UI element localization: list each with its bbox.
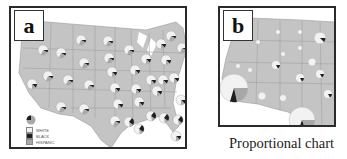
legend-swatch-hispanic <box>26 139 33 145</box>
legend-item-hispanic: HISPANIC <box>26 139 55 145</box>
panel-b-label: b <box>223 10 253 41</box>
legend-swatch-black <box>26 133 33 139</box>
panel-a-label: a <box>14 10 44 41</box>
panel-b-proportional-pie-map: b <box>218 6 336 127</box>
legend-swatch-white <box>26 127 33 133</box>
legend-label-black: BLACK <box>36 134 49 139</box>
legend-label-white: WHITE <box>36 128 49 133</box>
legend-label-hispanic: HISPANIC <box>36 140 55 145</box>
legend-pie-icon <box>26 115 36 125</box>
legend: WHITE BLACK HISPANIC <box>26 115 55 145</box>
large-pie-west <box>220 74 248 102</box>
panel-a-fixed-pie-map: a <box>9 6 187 149</box>
figure-caption: Proportional chart <box>229 135 334 152</box>
